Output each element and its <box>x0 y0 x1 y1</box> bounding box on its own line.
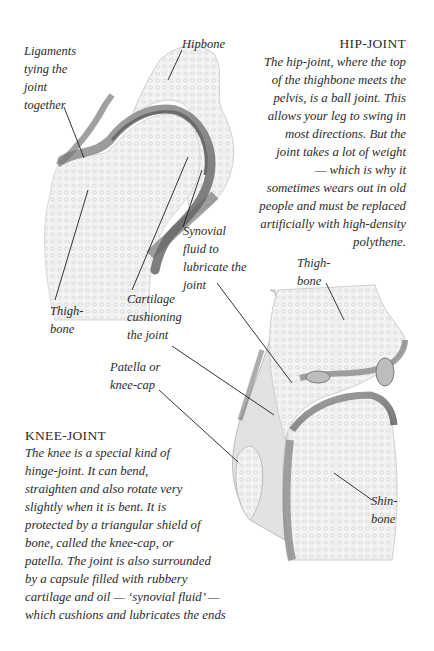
hip-line: polythene. <box>259 233 406 251</box>
knee-joint-heading: KNEE-JOINT <box>25 428 106 444</box>
hip-line: most directions. But the <box>259 125 406 143</box>
knee-joint-description: The knee is a special kind of hinge-join… <box>25 444 226 624</box>
hip-line: pelvis, is a ball joint. This <box>259 89 406 107</box>
hip-line: of the thighbone meets the <box>259 71 406 89</box>
hip-line: The hip-joint, where the top <box>259 53 406 71</box>
label-ligaments: Ligaments tying the joint together <box>24 42 76 114</box>
label-hip-thighbone: Thigh- bone <box>50 302 83 338</box>
label-shinbone: Shin- bone <box>371 492 397 528</box>
knee-line: patella. The joint is also surrounded <box>25 552 226 570</box>
label-knee-thighbone: Thigh- bone <box>297 254 330 290</box>
label-cartilage: Cartilage cushioning the joint <box>127 290 182 344</box>
hip-line: joint takes a lot of weight <box>259 143 406 161</box>
hip-line: — which is why it <box>259 161 406 179</box>
knee-line: protected by a triangular shield of <box>25 516 226 534</box>
hip-joint-description: The hip-joint, where the top of the thig… <box>259 53 406 251</box>
hip-line: sometimes wears out in old <box>259 179 406 197</box>
knee-line: cartilage and oil — ‘synovial fluid’ — <box>25 588 226 606</box>
label-patella: Patella or knee-cap <box>110 358 160 394</box>
knee-line: slightly when it is bent. It is <box>25 498 226 516</box>
hip-line: people and must be replaced <box>259 197 406 215</box>
knee-line: straighten and also rotate very <box>25 480 226 498</box>
knee-line: bone, called the knee-cap, or <box>25 534 226 552</box>
label-hipbone: Hipbone <box>182 35 225 53</box>
hip-joint-heading: HIP-JOINT <box>340 36 406 52</box>
knee-line: hinge-joint. It can bend, <box>25 462 226 480</box>
knee-line: which cushions and lubricates the ends <box>25 606 226 624</box>
hip-line: allows your leg to swing in <box>259 107 406 125</box>
knee-line: The knee is a special kind of <box>25 444 226 462</box>
hip-line: artificially with high-density <box>259 215 406 233</box>
knee-line: by a capsule filled with rubbery <box>25 570 226 588</box>
label-synovial-fluid: Synovial fluid to lubricate the joint <box>183 222 247 294</box>
